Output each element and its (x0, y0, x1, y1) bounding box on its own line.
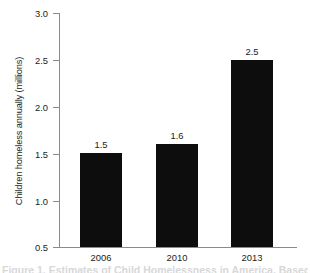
bar-group-2010: 1.6 (139, 13, 215, 247)
bar-chart-figure: Children homeless annually (millions) 3.… (0, 0, 310, 273)
bar-value-label-2013: 2.5 (245, 46, 258, 57)
x-axis-label-2013: 2013 (214, 252, 290, 263)
y-axis-tick-label-1.5: 1.5 (8, 149, 48, 160)
x-axis-label-2010: 2010 (139, 252, 215, 263)
y-axis-tick-0.5 (53, 247, 59, 248)
x-axis-label-2006: 2006 (63, 252, 139, 263)
bar-group-2006: 1.5 (63, 13, 139, 247)
bar-value-label-2010: 1.6 (170, 130, 183, 141)
bar-2010[interactable] (156, 144, 198, 247)
x-axis-line (59, 247, 297, 248)
bar-group-2013: 2.5 (214, 13, 290, 247)
figure-caption-cutoff: Figure 1. Estimates of Child Homelessnes… (2, 265, 308, 273)
y-axis-tick-label-3.0: 3.0 (8, 8, 48, 19)
y-axis-tick-label-1.0: 1.0 (8, 196, 48, 207)
bar-value-label-2006: 1.5 (94, 139, 107, 150)
bar-2013[interactable] (231, 60, 273, 247)
y-axis-tick-label-2.5: 2.5 (8, 55, 48, 66)
y-axis-tick-label-2.0: 2.0 (8, 102, 48, 113)
plot-area: 1.5 1.6 2.5 (59, 13, 297, 247)
y-axis-tick-label-0.5: 0.5 (8, 242, 48, 253)
bar-2006[interactable] (80, 153, 122, 247)
